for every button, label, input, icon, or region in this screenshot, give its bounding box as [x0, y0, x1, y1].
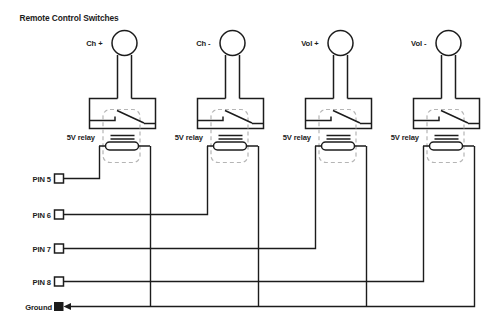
pin6-wire: [64, 146, 208, 215]
relay-label: 5V relay: [175, 133, 204, 142]
pin6-terminal: [55, 210, 64, 219]
switch-label: Ch -: [196, 39, 211, 48]
pin-wires: [64, 146, 424, 282]
switch-label: Vol +: [301, 39, 319, 48]
pin-labels: PIN 5 PIN 6 PIN 7 PIN 8 Ground: [25, 175, 52, 312]
switch-unit-vol-plus: Vol + 5V relay: [283, 31, 372, 163]
coil-caps: [435, 136, 459, 140]
pin7-label: PIN 7: [33, 245, 52, 254]
pin5-label: PIN 5: [33, 175, 52, 184]
contact-fixed: [306, 117, 332, 121]
pin-terminals: [54, 174, 64, 311]
contact-fixed: [198, 117, 224, 121]
coil-caps: [327, 136, 351, 140]
coil-caps: [111, 136, 135, 140]
ground-terminal: [54, 302, 64, 311]
pushbutton-stem: [226, 55, 240, 99]
contact-blade: [117, 111, 156, 124]
pushbutton-cap: [436, 31, 461, 56]
contact-blade: [441, 111, 480, 124]
switch-label: Ch +: [86, 39, 103, 48]
relay-label: 5V relay: [67, 133, 96, 142]
coil-body: [214, 142, 247, 150]
switch-unit-ch-plus: Ch + 5V relay: [67, 31, 156, 163]
contact-fixed: [414, 117, 440, 121]
switch-unit-ch-minus: Ch - 5V relay: [175, 31, 264, 163]
diagram-title: Remote Control Switches: [20, 13, 120, 23]
contact-blade: [225, 111, 264, 124]
pin8-terminal: [55, 277, 64, 286]
pushbutton-cap: [112, 31, 137, 56]
switch-label: Vol -: [411, 39, 427, 48]
coil-caps: [219, 136, 243, 140]
ground-wires: [64, 146, 475, 310]
ground-arrowhead: [64, 303, 72, 310]
coil-body: [430, 142, 463, 150]
contact-fixed: [90, 117, 116, 121]
wiring-diagram-page: Remote Control Switches Ch + 5V relay Ch…: [0, 0, 500, 322]
pushbutton-stem: [334, 55, 348, 99]
pin8-wire: [64, 146, 424, 282]
pin8-label: PIN 8: [33, 278, 52, 287]
pin5-terminal: [55, 174, 64, 183]
relay-label: 5V relay: [391, 133, 420, 142]
coil-body: [322, 142, 355, 150]
ground-label: Ground: [25, 303, 52, 312]
pin6-label: PIN 6: [33, 211, 52, 220]
pushbutton-stem: [442, 55, 456, 99]
switch-unit-vol-minus: Vol - 5V relay: [391, 31, 480, 163]
ground-bus: [69, 146, 475, 307]
relay-label: 5V relay: [283, 133, 312, 142]
coil-body: [106, 142, 139, 150]
pin7-wire: [64, 146, 316, 249]
pushbutton-stem: [118, 55, 132, 99]
wiring-diagram: Remote Control Switches Ch + 5V relay Ch…: [0, 0, 500, 322]
pushbutton-cap: [328, 31, 353, 56]
pin5-wire: [64, 146, 100, 179]
pin7-terminal: [55, 244, 64, 253]
pushbutton-cap: [220, 31, 245, 56]
contact-blade: [333, 111, 372, 124]
